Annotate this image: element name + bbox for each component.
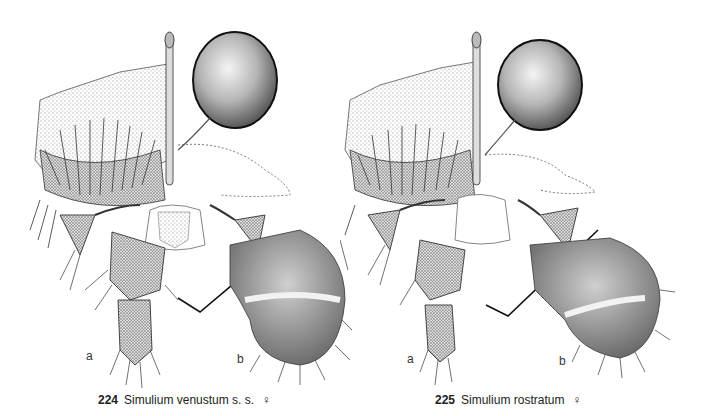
cercus bbox=[425, 305, 455, 362]
panel-label-a: a bbox=[86, 349, 93, 363]
genitalia-illustration bbox=[340, 0, 704, 390]
gonapophysis-left bbox=[60, 215, 95, 255]
paraproct bbox=[415, 240, 465, 300]
figure-caption: 224Simulium venustum s. s.♀ bbox=[98, 393, 271, 407]
figure-224: a b 224Simulium venustum s. s.♀ bbox=[0, 0, 352, 416]
female-symbol: ♀ bbox=[262, 393, 271, 407]
species-name: Simulium rostratum bbox=[461, 393, 564, 407]
species-name: Simulium venustum s. s. bbox=[124, 393, 254, 407]
spermatheca bbox=[498, 40, 582, 130]
figure-number: 225 bbox=[435, 393, 455, 407]
cercus bbox=[118, 300, 152, 365]
gonapophysis-left bbox=[368, 210, 400, 250]
spermathecal-duct bbox=[473, 35, 480, 185]
figure-number: 224 bbox=[98, 393, 118, 407]
female-symbol: ♀ bbox=[572, 393, 581, 407]
panel-label-b: b bbox=[237, 352, 244, 366]
genitalia-illustration bbox=[0, 0, 352, 390]
panel-label-a: a bbox=[407, 352, 414, 366]
spermathecal-duct bbox=[166, 35, 173, 185]
figure-225: a b 225Simulium rostratum♀ bbox=[340, 0, 692, 416]
panel-label-b: b bbox=[559, 354, 566, 368]
spermatheca bbox=[193, 32, 277, 128]
figure-caption: 225Simulium rostratum♀ bbox=[435, 393, 581, 407]
